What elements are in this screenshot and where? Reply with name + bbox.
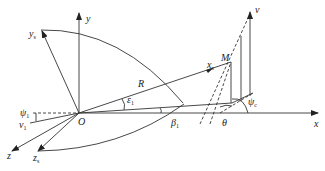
label-zs: zs bbox=[33, 153, 39, 164]
label-z: z bbox=[7, 151, 11, 161]
beta1-arc bbox=[160, 108, 161, 113]
psic-arc bbox=[232, 99, 248, 113]
eps1-arc bbox=[122, 99, 125, 110]
ys-axis bbox=[42, 31, 79, 113]
label-psi1: ψ1 bbox=[20, 108, 29, 119]
label-O: O bbox=[78, 117, 85, 127]
v1-line bbox=[30, 113, 79, 123]
label-beta1: β1 bbox=[171, 118, 179, 129]
label-M: M bbox=[221, 53, 229, 63]
label-x: x bbox=[314, 119, 318, 129]
label-theta: θ bbox=[222, 118, 227, 128]
label-v: v bbox=[255, 5, 259, 15]
label-psic: ψc bbox=[248, 97, 257, 108]
label-y: y bbox=[86, 14, 90, 24]
label-eps1: ε1 bbox=[127, 95, 134, 106]
coordinate-diagram bbox=[0, 0, 325, 171]
label-xs: xs bbox=[207, 60, 214, 71]
label-v1: v1 bbox=[19, 120, 26, 131]
zs-axis bbox=[38, 113, 79, 151]
upper-arc bbox=[41, 30, 183, 103]
label-R: R bbox=[138, 79, 144, 89]
m-dashed bbox=[210, 62, 231, 124]
label-ys: ys bbox=[29, 29, 36, 40]
